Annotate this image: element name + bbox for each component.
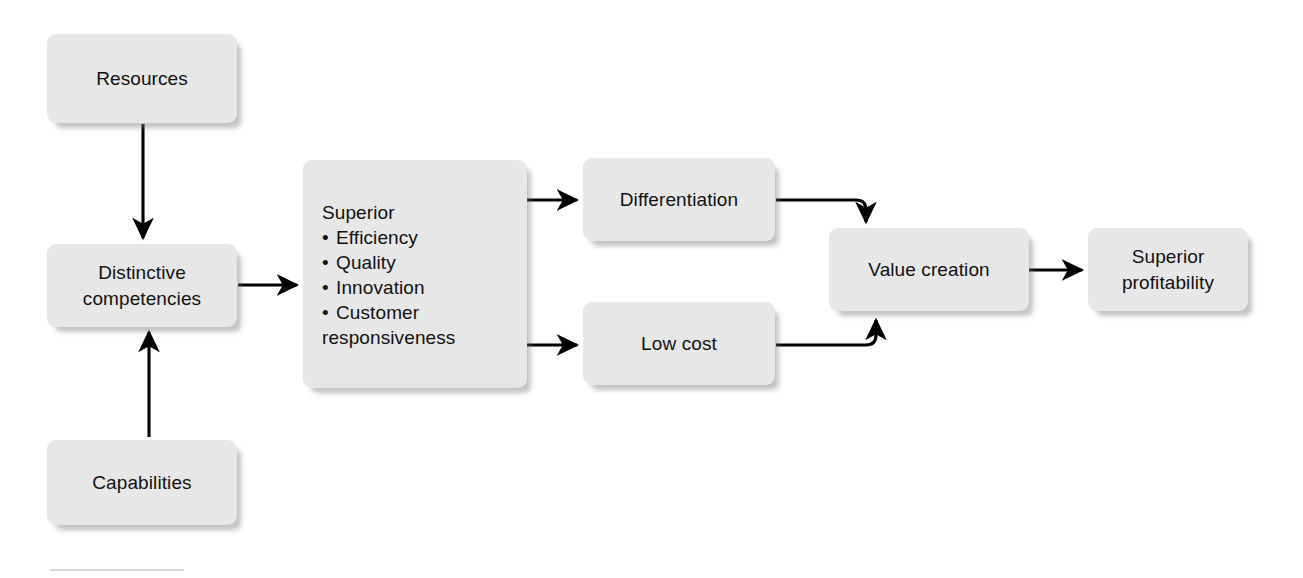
node-superior-profitability-line1: Superior [1132, 244, 1205, 269]
list-item: Quality [322, 250, 455, 275]
node-value-creation-label: Value creation [868, 257, 989, 282]
node-resources-label: Resources [96, 66, 188, 91]
diagram-canvas: Resources Distinctive competencies Capab… [0, 0, 1303, 578]
node-capabilities-label: Capabilities [92, 470, 191, 495]
node-superior[interactable]: Superior Efficiency Quality Innovation C… [303, 160, 527, 388]
node-distinctive-competencies[interactable]: Distinctive competencies [47, 244, 237, 327]
footer-rule [50, 569, 184, 571]
node-low-cost[interactable]: Low cost [583, 302, 775, 385]
node-superior-heading: Superior [322, 200, 395, 225]
list-item: Customer responsiveness [322, 300, 455, 350]
node-distinctive-competencies-line1: Distinctive [98, 260, 186, 285]
list-item: Efficiency [322, 225, 455, 250]
edge-differentiation-to-value-creation [776, 200, 866, 222]
node-capabilities[interactable]: Capabilities [47, 440, 237, 525]
node-superior-profitability[interactable]: Superior profitability [1088, 228, 1248, 311]
node-superior-list: Efficiency Quality Innovation Customer r… [322, 225, 455, 350]
node-superior-profitability-line2: profitability [1122, 270, 1214, 295]
node-differentiation[interactable]: Differentiation [583, 158, 775, 241]
node-low-cost-label: Low cost [641, 331, 717, 356]
node-distinctive-competencies-line2: competencies [83, 286, 201, 311]
list-item: Innovation [322, 275, 455, 300]
node-value-creation[interactable]: Value creation [829, 228, 1029, 311]
node-resources[interactable]: Resources [47, 34, 237, 123]
edge-low-cost-to-value-creation [776, 320, 876, 345]
node-differentiation-label: Differentiation [620, 187, 738, 212]
list-item-wrap: responsiveness [322, 325, 455, 350]
